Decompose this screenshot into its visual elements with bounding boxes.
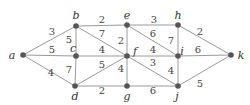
edge-weight-e-f: 2 (118, 35, 124, 46)
node-f (124, 53, 130, 59)
node-g (124, 83, 130, 89)
node-label-h: h (174, 9, 181, 22)
edge-i-k (178, 55, 231, 56)
edge-weight-j-k: 5 (197, 78, 203, 89)
node-label-i: i (180, 45, 184, 58)
edge-weight-b-f: 7 (99, 28, 105, 39)
edge-weight-c-f: 4 (99, 44, 105, 55)
node-label-k: k (238, 49, 245, 62)
edge-weight-e-h: 3 (151, 14, 157, 25)
edge-weight-h-i: 7 (168, 35, 174, 46)
node-j (175, 83, 181, 89)
edge-weight-i-j: 4 (168, 65, 174, 76)
edge-weight-i-k: 6 (195, 44, 201, 55)
node-e (124, 22, 130, 28)
edge-weight-a-c: 5 (49, 44, 55, 55)
node-label-j: j (172, 90, 179, 103)
edge-weight-f-g: 4 (118, 63, 124, 74)
edge-weight-a-d: 4 (48, 67, 54, 78)
edge-weight-g-j: 6 (150, 85, 156, 96)
edge-b-e (76, 25, 127, 26)
node-d (72, 83, 78, 89)
node-label-c: c (70, 42, 76, 55)
node-a (20, 52, 26, 58)
edge-j-k (178, 55, 231, 86)
node-label-e: e (124, 9, 131, 22)
edge-a-c (23, 55, 76, 56)
node-k (228, 52, 234, 58)
node-label-b: b (72, 9, 79, 22)
edge-weight-b-e: 2 (99, 14, 105, 25)
edge-weight-d-f: 5 (99, 59, 105, 70)
edge-weight-d-g: 2 (99, 85, 105, 96)
edge-weight-c-d: 7 (66, 64, 72, 75)
edge-weight-f-j: 3 (150, 57, 156, 68)
node-h (175, 22, 181, 28)
edge-weight-h-k: 2 (197, 26, 203, 37)
edge-weight-e-i: 6 (150, 28, 156, 39)
node-b (73, 23, 79, 29)
node-label-a: a (9, 49, 16, 62)
node-label-d: d (71, 90, 78, 103)
node-label-g: g (123, 90, 130, 103)
edge-weight-a-b: 3 (49, 26, 55, 37)
weighted-graph-diagram: 3545274752236443672645 abcdefghijk (0, 0, 250, 105)
edge-h-k (178, 25, 231, 55)
edge-weight-f-i: 4 (150, 44, 156, 55)
edge-c-d (75, 56, 76, 86)
